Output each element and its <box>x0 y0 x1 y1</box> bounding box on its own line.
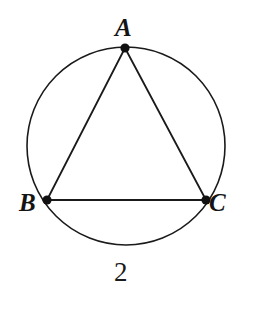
vertex-label-b: B <box>19 190 36 215</box>
vertex-label-a: A <box>115 15 132 40</box>
vertex-dot-a <box>120 43 129 52</box>
triangle-side-ab <box>47 48 125 200</box>
vertex-label-c: C <box>209 190 226 215</box>
triangle-side-ac <box>125 48 206 200</box>
geometry-figure: A B C 2 <box>0 0 253 314</box>
vertex-dot-b <box>42 195 51 204</box>
arc-length-label: 2 <box>114 259 128 286</box>
circumcircle <box>27 47 225 245</box>
